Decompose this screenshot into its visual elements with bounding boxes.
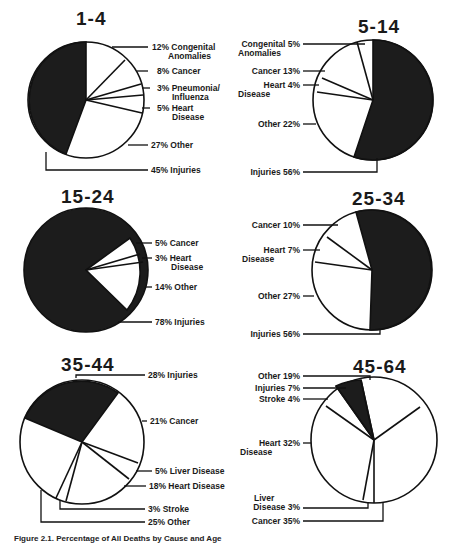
label-stroke: 3% Stroke	[148, 505, 189, 514]
label-cancer: 5% Cancer	[155, 239, 198, 248]
figure-caption: Figure 2.1. Percentage of All Deaths by …	[14, 534, 221, 543]
label-heart-disease: Heart 7%Disease	[242, 246, 300, 264]
label-heart-disease: 18% Heart Disease	[149, 482, 225, 491]
label-pneumonia: 3% Pneumonia/Influenza	[157, 84, 220, 102]
label-liver-disease: LiverDisease 3%	[240, 494, 300, 512]
label-heart-disease: 5% HeartDisease	[157, 104, 204, 122]
label-cancer: 21% Cancer	[150, 417, 198, 426]
label-heart-disease: Heart 32%Disease	[240, 439, 300, 457]
chart-title-35-44: 35-44	[61, 354, 115, 376]
label-injuries: Injuries 56%	[250, 168, 300, 177]
label-liver-disease: 5% Liver Disease	[155, 467, 224, 476]
label-other: Other 22%	[258, 120, 300, 129]
label-heart-disease: 3% HeartDisease	[155, 254, 203, 272]
chart-title-15-24: 15-24	[61, 186, 115, 208]
label-cancer: Cancer 13%	[252, 67, 300, 76]
chart-title-45-64: 45-64	[353, 356, 407, 378]
label-cancer: Cancer 10%	[252, 221, 300, 230]
label-heart-disease: Heart 4%Disease	[238, 81, 300, 99]
label-injuries: Injuries 7%	[255, 384, 300, 393]
label-injuries: 28% Injuries	[148, 371, 198, 380]
chart-title-5-14: 5-14	[358, 16, 400, 38]
label-other: 27% Other	[151, 141, 193, 150]
label-cancer: Cancer 35%	[252, 517, 300, 526]
label-injuries: 78% Injuries	[155, 318, 205, 327]
label-other: 25% Other	[148, 518, 190, 527]
label-other: Other 27%	[258, 292, 300, 301]
label-other: 14% Other	[155, 283, 197, 292]
label-congenital: 12% CongenitalAnomalies	[152, 43, 215, 61]
label-injuries: 45% Injuries	[151, 166, 201, 175]
label-stroke: Stroke 4%	[259, 395, 300, 404]
label-injuries: Injuries 56%	[250, 330, 300, 339]
label-congenital: Congenital 5%Anomalies	[238, 40, 300, 58]
chart-title-25-34: 25-34	[352, 188, 406, 210]
label-other: Other 19%	[258, 372, 300, 381]
pie-chart-1-4	[0, 0, 450, 543]
label-cancer: 8% Cancer	[157, 67, 200, 76]
